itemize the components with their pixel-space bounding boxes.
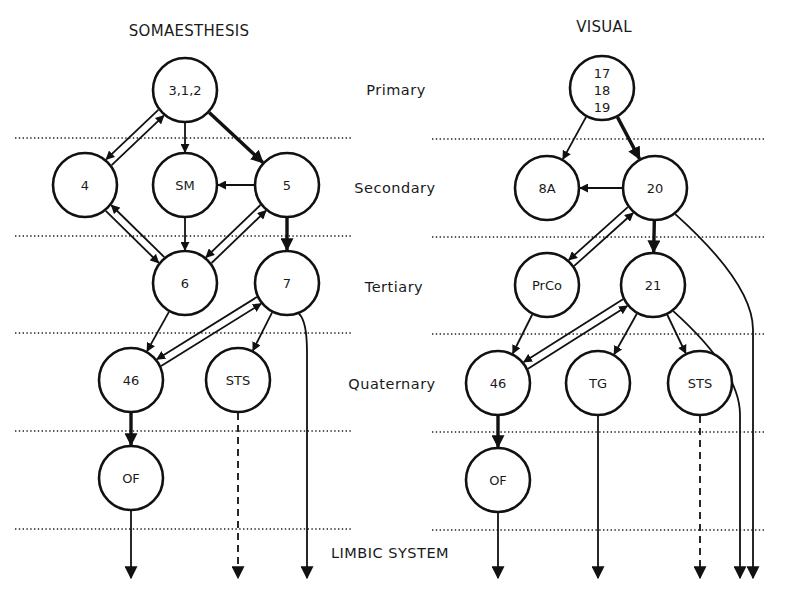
node-label: 7 [283,276,291,291]
node-label: TG [588,376,607,391]
node-label: 19 [594,100,611,115]
node-somaesthesis-sOF: OF [99,446,163,510]
node-label: 46 [490,376,507,391]
edge-s6-to-s46 [147,312,169,351]
node-visual-v8A: 8A [515,156,579,220]
edge-s312-to-s4-backward [112,116,164,166]
node-label: OF [122,471,140,486]
node-label: 5 [283,178,291,193]
edge-v171819-to-v20 [617,117,639,159]
edge-v20-to-vPrCo-forward [569,207,628,260]
node-somaesthesis-s4: 4 [53,153,117,217]
edge-s5-to-s6-forward [206,205,260,257]
node-visual-vOF: OF [466,448,530,512]
node-somaesthesis-sSTS: STS [206,348,270,412]
edge-s4-to-s6-backward [111,205,164,257]
edge-s312-to-s4-forward [106,110,158,160]
edge-v171819-to-v8A [563,117,586,159]
node-visual-v46: 46 [466,351,530,415]
level-label-secondary: Secondary [354,180,435,196]
panel-title-somaesthesis: SOMAESTHESIS [129,22,250,40]
node-label: 4 [81,178,89,193]
node-visual-vSTS: STS [668,351,732,415]
node-label: STS [226,373,250,388]
node-label: 6 [181,276,189,291]
node-somaesthesis-s7: 7 [255,251,319,315]
node-somaesthesis-s46: 46 [99,348,163,412]
node-label: PrCo [532,278,562,293]
edge-s7-to-limbic-system [299,314,307,578]
edge-v20-to-v21 [654,221,655,252]
level-label-quaternary: Quaternary [348,376,435,392]
node-label: 18 [594,83,611,98]
node-label: STS [688,376,712,391]
edge-s4-to-s6-forward [106,211,159,263]
node-somaesthesis-s312: 3,1,2 [153,58,217,122]
edge-s7-to-sSTS [253,312,272,350]
node-label: 3,1,2 [168,83,201,98]
node-label: 20 [647,181,664,196]
node-label: 21 [645,278,662,293]
node-label: SM [175,178,194,193]
node-somaesthesis-sSM: SM [153,153,217,217]
cortical-pathways-diagram: SOMAESTHESIS VISUAL Primary Secondary Te… [0,0,803,608]
level-label-tertiary: Tertiary [364,279,423,295]
node-visual-vPrCo: PrCo [515,253,579,317]
edge-v20-to-vPrCo-backward [574,213,633,266]
node-label: OF [489,473,507,488]
node-visual-v21: 21 [621,253,685,317]
node-label: 17 [594,66,611,81]
node-label: 8A [538,181,555,196]
node-visual-v171819: 171819 [570,56,634,120]
node-somaesthesis-s5: 5 [255,153,319,217]
panel-title-visual: VISUAL [576,18,632,36]
edge-s5-to-s6-backward [212,211,266,263]
node-visual-vTG: TG [566,351,630,415]
node-somaesthesis-s6: 6 [153,251,217,315]
level-label-primary: Primary [366,82,426,98]
level-label-limbic-system: LIMBIC SYSTEM [331,545,449,561]
node-label: 46 [123,373,140,388]
node-visual-v20: 20 [623,156,687,220]
